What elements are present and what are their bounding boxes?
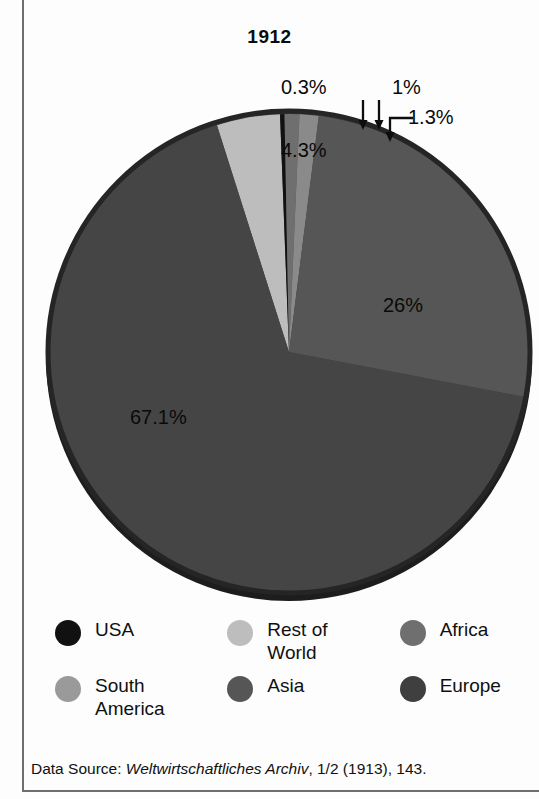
- legend-swatch-asia: [227, 676, 253, 702]
- data-label-europe: 67.1%: [130, 406, 187, 429]
- data-label-south-america: 1.3%: [408, 106, 454, 129]
- legend-item-south-america[interactable]: South America: [22, 674, 194, 720]
- legend-item-asia[interactable]: Asia: [194, 674, 366, 720]
- legend-row: South America Asia Europe: [22, 674, 539, 720]
- legend-swatch-europe: [400, 676, 426, 702]
- legend-item-europe[interactable]: Europe: [367, 674, 539, 720]
- legend-label-rest-of-world: Rest of World: [267, 618, 366, 664]
- source-note: Data Source: Weltwirtschaftliches Archiv…: [31, 760, 426, 778]
- legend-swatch-africa: [400, 620, 426, 646]
- data-label-asia: 26%: [383, 294, 423, 317]
- legend-label-africa: Africa: [440, 618, 489, 641]
- chart-page: 1912: [0, 0, 539, 799]
- legend-swatch-south-america: [55, 676, 81, 702]
- source-prefix: Data Source:: [31, 760, 126, 777]
- data-label-africa: 1%: [392, 76, 421, 99]
- legend-swatch-usa: [55, 620, 81, 646]
- legend-item-usa[interactable]: USA: [22, 618, 194, 664]
- legend-item-africa[interactable]: Africa: [367, 618, 539, 664]
- source-suffix: , 1/2 (1913), 143.: [308, 760, 426, 777]
- legend-label-south-america: South America: [95, 674, 194, 720]
- data-label-usa: 0.3%: [281, 76, 327, 99]
- legend-label-asia: Asia: [267, 674, 304, 697]
- frame-bottom-rule: [22, 790, 539, 792]
- legend: USA Rest of World Africa South America A…: [22, 618, 539, 738]
- pie-chart-area: [0, 100, 539, 620]
- legend-row: USA Rest of World Africa: [22, 618, 539, 664]
- legend-swatch-rest-of-world: [227, 620, 253, 646]
- page-title: 1912: [0, 26, 539, 48]
- legend-label-europe: Europe: [440, 674, 501, 697]
- source-journal-title: Weltwirtschaftliches Archiv: [126, 760, 309, 777]
- pie-chart-svg: [0, 100, 539, 620]
- data-label-rest-of-world: 4.3%: [281, 139, 327, 162]
- legend-item-rest-of-world[interactable]: Rest of World: [194, 618, 366, 664]
- legend-label-usa: USA: [95, 618, 134, 641]
